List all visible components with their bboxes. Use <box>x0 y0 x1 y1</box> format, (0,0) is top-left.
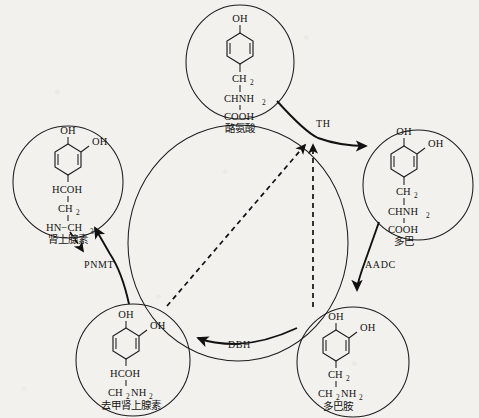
molecule-norepinephrine: OH OH HCOH CH 2 NH 2 去甲肾上腺素 <box>76 304 190 416</box>
dopa-line1: CH <box>396 186 411 197</box>
dopa-oh-side-label: OH <box>428 138 444 149</box>
enzyme-label-PNMT: PNMT <box>84 259 114 270</box>
tyrosine-name-cn: 酪氨酸 <box>225 122 256 134</box>
tyrosine-line1-sub: 2 <box>250 78 254 87</box>
dopamine-line2: CH <box>318 388 333 399</box>
dopamine-circle <box>297 307 409 417</box>
dopa-line1-sub: 2 <box>414 191 418 200</box>
epinephrine-line1: HCOH <box>52 184 82 195</box>
epinephrine-line2-sub: 2 <box>76 208 80 217</box>
dopamine-line1: CH <box>328 369 343 380</box>
norepinephrine-line2: CH <box>108 387 123 398</box>
feedback-norepinephrine-to-th <box>167 145 305 306</box>
dopamine-line2b: NH <box>341 388 357 399</box>
dopa-benzene-ring <box>391 146 417 177</box>
epinephrine-line3-sub: 3 <box>90 227 94 236</box>
dopamine-oh-top-label: OH <box>328 311 344 322</box>
epinephrine-line2: CH <box>58 203 73 214</box>
epinephrine-line3: HN−CH <box>46 222 82 233</box>
tyrosine-oh-label: OH <box>232 13 248 24</box>
norepinephrine-line2b: NH <box>131 387 147 398</box>
enzyme-label-DBH: DBH <box>228 339 251 350</box>
dopa-line2: CHNH <box>388 206 418 217</box>
epinephrine-benzene-ring <box>55 144 81 175</box>
dopamine-line2b-sub: 2 <box>359 393 363 402</box>
arrow-aadc-dopa-to-dopamine <box>357 222 379 290</box>
tyrosine-benzene-ring <box>227 33 253 64</box>
norepinephrine-name-cn: 去甲肾上腺素 <box>101 399 161 411</box>
epinephrine-name-cn: 肾上腺素 <box>48 233 88 245</box>
dopamine-oh-side-label: OH <box>360 322 376 333</box>
catecholamine-pathway-diagram: OH CH 2 CHNH 2 COOH 酪氨酸 OH OH CH 2 CHNH … <box>0 0 479 418</box>
molecule-dopa: OH OH CH 2 CHNH 2 COOH 多巴 <box>363 126 473 247</box>
norepinephrine-oh-side-label: OH <box>150 320 166 331</box>
norepinephrine-benzene-ring <box>113 328 139 359</box>
enzyme-label-AADC: AADC <box>365 259 396 270</box>
epinephrine-oh-top-label: OH <box>60 125 76 136</box>
tyrosine-line2-sub: 2 <box>262 98 266 107</box>
norepinephrine-line1: HCOH <box>110 368 140 379</box>
molecule-epinephrine: OH OH HCOH CH 2 HN−CH 3 肾上腺素 <box>13 125 123 245</box>
molecule-tyrosine: OH CH 2 CHNH 2 COOH 酪氨酸 <box>186 5 294 134</box>
dopamine-benzene-ring <box>323 330 349 361</box>
tyrosine-line1: CH <box>232 73 247 84</box>
dopamine-name-cn: 多巴胺 <box>323 400 354 412</box>
dopa-name-cn: 多巴 <box>394 235 414 247</box>
molecule-dopamine: OH OH CH 2 CH 2 NH 2 多巴胺 <box>297 307 409 417</box>
dopa-oh-top-label: OH <box>396 126 412 137</box>
epinephrine-oh-side-label: OH <box>92 136 108 147</box>
enzyme-label-TH: TH <box>316 118 331 129</box>
dopamine-line1-sub: 2 <box>346 374 350 383</box>
dopa-line3: COOH <box>388 224 418 235</box>
dopa-line2-sub: 2 <box>426 211 430 220</box>
tyrosine-line2: CHNH <box>224 93 254 104</box>
tyrosine-line3: COOH <box>224 111 254 122</box>
norepinephrine-oh-top-label: OH <box>118 309 134 320</box>
